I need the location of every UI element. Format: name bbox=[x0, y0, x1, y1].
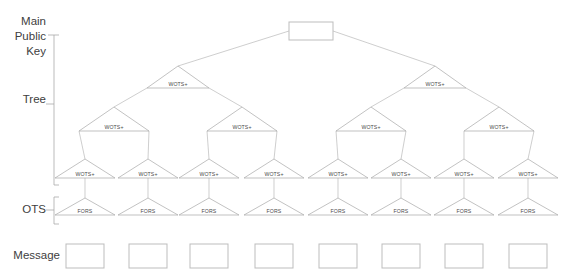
fors-node-1-label: FORS bbox=[141, 208, 156, 214]
message-box-0 bbox=[66, 244, 104, 268]
fors-node-6-label: FORS bbox=[457, 208, 472, 214]
edge-l1-1-l2-3 bbox=[466, 88, 499, 107]
edge-l2-1-l3-2 bbox=[207, 131, 209, 159]
edge-l1-0-l2-1 bbox=[209, 88, 242, 107]
wots-node-l1-1-label: WOTS+ bbox=[425, 81, 444, 87]
root-node bbox=[289, 22, 333, 40]
wots-node-l2-2-label: WOTS+ bbox=[361, 124, 380, 130]
fors-node-7-label: FORS bbox=[521, 208, 536, 214]
tree-bracket bbox=[54, 35, 59, 185]
wots-node-l3-2-label: WOTS+ bbox=[199, 171, 218, 177]
wots-node-l3-5-label: WOTS+ bbox=[391, 171, 410, 177]
edge-l2-3-l3-7 bbox=[528, 131, 534, 159]
fors-node-3-label: FORS bbox=[267, 208, 282, 214]
edge-l2-2-l3-4 bbox=[336, 131, 338, 159]
wots-node-l3-0-label: WOTS+ bbox=[75, 171, 94, 177]
edge-l2-2-l3-5 bbox=[401, 131, 406, 159]
edge-l2-0-l3-1 bbox=[148, 131, 149, 159]
edge-root-l1-1 bbox=[333, 31, 435, 66]
message-box-6 bbox=[445, 244, 483, 268]
message-box-1 bbox=[129, 244, 167, 268]
ots-bracket bbox=[54, 197, 59, 224]
node-group: WOTS+WOTS+WOTS+WOTS+WOTS+WOTS+WOTS+WOTS+… bbox=[55, 22, 558, 268]
wots-node-l3-6-label: WOTS+ bbox=[454, 171, 473, 177]
fors-node-0-label: FORS bbox=[78, 208, 93, 214]
edge-l1-0-l2-0 bbox=[114, 88, 147, 107]
message-box-7 bbox=[509, 244, 547, 268]
wots-node-l2-0-label: WOTS+ bbox=[104, 124, 123, 130]
message-box-4 bbox=[319, 244, 357, 268]
wots-node-l3-3-label: WOTS+ bbox=[264, 171, 283, 177]
wots-node-l3-1-label: WOTS+ bbox=[138, 171, 157, 177]
hypertree-diagram: Main Public Key Tree OTS Message WOTS+WO… bbox=[0, 0, 575, 278]
edge-l2-1-l3-3 bbox=[274, 131, 277, 159]
message-box-5 bbox=[382, 244, 420, 268]
edge-l1-1-l2-2 bbox=[371, 88, 404, 107]
wots-node-l2-3-label: WOTS+ bbox=[489, 124, 508, 130]
message-box-3 bbox=[255, 244, 293, 268]
fors-node-5-label: FORS bbox=[394, 208, 409, 214]
fors-node-2-label: FORS bbox=[202, 208, 217, 214]
message-box-2 bbox=[190, 244, 228, 268]
diagram-canvas: WOTS+WOTS+WOTS+WOTS+WOTS+WOTS+WOTS+WOTS+… bbox=[0, 0, 575, 278]
wots-node-l2-1-label: WOTS+ bbox=[232, 124, 251, 130]
wots-node-l3-4-label: WOTS+ bbox=[328, 171, 347, 177]
edge-l2-0-l3-0 bbox=[79, 131, 85, 159]
wots-node-l1-0-label: WOTS+ bbox=[168, 81, 187, 87]
wots-node-l3-7-label: WOTS+ bbox=[518, 171, 537, 177]
edge-root-l1-0 bbox=[178, 31, 289, 66]
bracket-group bbox=[46, 35, 59, 224]
fors-node-4-label: FORS bbox=[331, 208, 346, 214]
